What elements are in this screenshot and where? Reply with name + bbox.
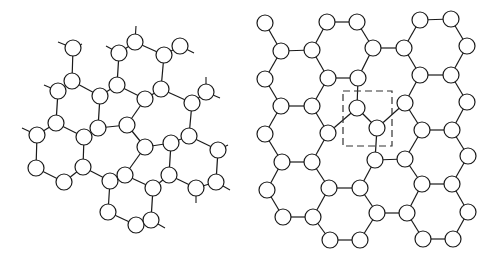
atom-node	[369, 120, 385, 136]
atom-node	[322, 232, 338, 248]
atom-node	[414, 176, 430, 192]
atom-node	[444, 122, 460, 138]
atom-node	[75, 159, 91, 175]
atom-node	[273, 43, 289, 59]
atom-node	[445, 231, 461, 247]
atom-node	[459, 38, 475, 54]
atom-node	[117, 167, 133, 183]
atom-node	[210, 142, 226, 158]
atom-node	[172, 38, 188, 54]
atom-node	[415, 231, 431, 247]
atom-node	[460, 204, 476, 220]
atom-node	[64, 73, 80, 89]
atom-node	[412, 67, 428, 83]
atom-node	[399, 205, 415, 221]
panel-left-distorted-network	[22, 26, 230, 233]
atom-node	[208, 174, 224, 190]
atom-node	[143, 212, 159, 228]
atom-node	[109, 77, 125, 93]
atom-node	[257, 71, 273, 87]
atom-node	[367, 152, 383, 168]
atom-node	[319, 14, 335, 30]
atom-node	[414, 122, 430, 138]
panel-right-graphene-lattice	[257, 11, 476, 248]
atom-node	[352, 180, 368, 196]
atom-node	[137, 139, 153, 155]
atom-node	[365, 40, 381, 56]
atom-node	[184, 95, 200, 111]
atom-node	[257, 126, 273, 142]
atom-node	[350, 70, 366, 86]
atom-node	[320, 70, 336, 86]
atom-node	[275, 209, 291, 225]
atom-node	[397, 95, 413, 111]
atom-node	[127, 34, 143, 50]
atom-node	[102, 173, 118, 189]
atom-node	[304, 42, 320, 58]
atom-node	[460, 148, 476, 164]
atom-node	[352, 232, 368, 248]
atom-node	[397, 151, 413, 167]
atom-node	[111, 45, 127, 61]
atom-node	[369, 205, 385, 221]
atom-node	[153, 81, 169, 97]
atom-node	[188, 180, 204, 196]
atom-node	[128, 217, 144, 233]
atom-node	[90, 120, 106, 136]
atom-node	[48, 115, 64, 131]
atom-node	[100, 204, 116, 220]
atom-node	[28, 160, 44, 176]
atom-node	[163, 135, 179, 151]
atom-node	[349, 14, 365, 30]
atom-node	[65, 40, 81, 56]
atom-node	[320, 125, 336, 141]
atom-node	[76, 129, 92, 145]
atom-node	[50, 83, 66, 99]
atom-node	[119, 117, 135, 133]
atom-node	[304, 98, 320, 114]
atom-node	[56, 174, 72, 190]
atom-node	[274, 154, 290, 170]
atom-node	[459, 94, 475, 110]
atom-node	[305, 209, 321, 225]
atom-node	[156, 47, 172, 63]
atom-node	[92, 88, 108, 104]
atom-node	[273, 98, 289, 114]
atom-node	[29, 127, 45, 143]
atom-node	[259, 182, 275, 198]
atom-node	[181, 128, 197, 144]
atom-node	[443, 11, 459, 27]
atom-node	[198, 84, 214, 100]
atom-node	[412, 12, 428, 28]
atom-node	[396, 40, 412, 56]
atom-node	[257, 15, 273, 31]
atom-node	[161, 167, 177, 183]
atom-node	[145, 180, 161, 196]
atom-node	[137, 91, 153, 107]
atom-node	[443, 67, 459, 83]
figure-canvas	[0, 0, 499, 261]
atom-node	[304, 154, 320, 170]
atom-node	[321, 180, 337, 196]
atom-node	[349, 100, 365, 116]
atom-node	[444, 176, 460, 192]
